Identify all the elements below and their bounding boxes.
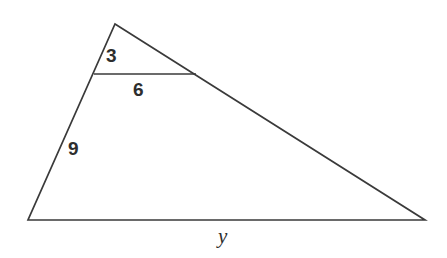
geometry-figure: 3 6 9 y: [0, 0, 447, 258]
label-lower-left-segment: 9: [68, 139, 79, 158]
label-upper-left-segment: 3: [106, 46, 117, 65]
outer-triangle-outline: [28, 24, 425, 220]
label-base-segment: y: [218, 226, 227, 247]
triangle-diagram-canvas: [0, 0, 447, 258]
label-cevian-segment: 6: [133, 80, 144, 99]
